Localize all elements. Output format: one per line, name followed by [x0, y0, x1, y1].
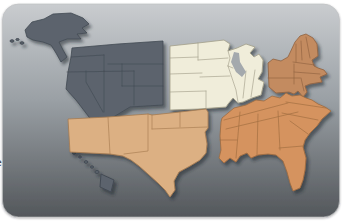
aleutian-island-shape — [20, 42, 24, 44]
aleutian-island-shape — [10, 40, 14, 42]
map-illustration: e — [0, 0, 344, 222]
aleutian-island-shape — [16, 39, 19, 41]
us-regions-map-image — [0, 0, 344, 222]
edge-text-fragment: e — [0, 157, 2, 168]
